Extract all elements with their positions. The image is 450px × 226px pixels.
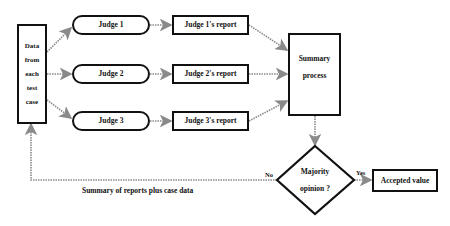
judge-label: Judge 3 <box>99 117 124 125</box>
yes-edge-label: Yes <box>356 169 365 176</box>
arrow-feedback-loop <box>31 124 277 180</box>
summary-process-node: Summary process <box>288 33 341 116</box>
report-label: Judge 2's report <box>185 70 237 78</box>
arrow-report3-summary <box>249 101 287 121</box>
judge-label: Judge 2 <box>99 70 124 78</box>
judge-3-node: Judge 3 <box>72 111 150 131</box>
report-label: Judge 3's report <box>185 117 237 125</box>
summary-line: Summary <box>299 55 331 63</box>
no-edge-label: No <box>265 171 273 178</box>
data-node-line: Data <box>25 43 39 50</box>
data-node-line: case <box>26 99 38 106</box>
accepted-value-node: Accepted value <box>372 169 438 192</box>
data-node-line: each <box>25 71 39 78</box>
report-label: Judge 1's report <box>185 21 237 29</box>
judge-1-node: Judge 1 <box>72 15 150 35</box>
judge-2-node: Judge 2 <box>72 64 150 84</box>
data-node-line: test <box>27 85 38 92</box>
arrow-report1-summary <box>249 25 287 50</box>
report-2-node: Judge 2's report <box>172 64 249 84</box>
data-source-node: Data from each test case <box>17 24 47 124</box>
report-1-node: Judge 1's report <box>172 15 249 35</box>
judge-label: Judge 1 <box>99 21 124 29</box>
accepted-label: Accepted value <box>381 177 430 185</box>
report-3-node: Judge 3's report <box>172 111 249 131</box>
feedback-edge-label: Summary of reports plus case data <box>82 186 193 195</box>
decision-line: opinion ? <box>300 184 330 193</box>
arrow-data-judge1 <box>47 28 71 52</box>
decision-line: Majority <box>301 167 330 176</box>
data-node-line: from <box>25 57 40 64</box>
decision-label: Majority opinion ? <box>290 167 340 193</box>
arrow-data-judge3 <box>47 100 71 118</box>
summary-line: process <box>303 72 327 80</box>
